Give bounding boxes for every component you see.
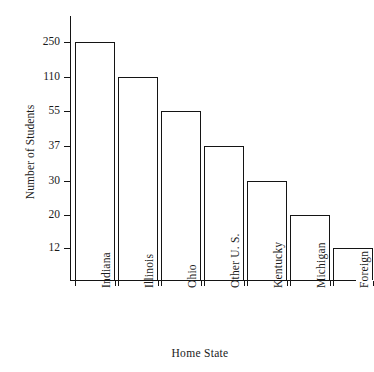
x-tick-mark (287, 281, 288, 286)
x-tick-mark (158, 281, 159, 286)
x-tick-mark (244, 281, 245, 286)
x-tick-mark (333, 281, 334, 286)
y-tick-label: 110 (30, 71, 60, 83)
x-tick-mark (118, 281, 119, 286)
x-tick-mark (247, 281, 248, 286)
y-tick-mark (64, 77, 71, 78)
y-tick-label: 55 (30, 105, 60, 117)
y-tick-label: 37 (30, 140, 60, 152)
x-category-label: Indiana (100, 252, 112, 288)
x-tick-mark (204, 281, 205, 286)
y-tick-label: 12 (30, 242, 60, 254)
y-tick-label-wrap: 110 (28, 71, 60, 83)
x-axis-title: Home State (70, 347, 330, 359)
y-tick-label: 250 (30, 36, 60, 48)
y-tick-label-wrap: 55 (28, 105, 60, 117)
x-category-label: Other U. S. (229, 233, 241, 288)
y-tick-label-wrap: 37 (28, 140, 60, 152)
bar-illinois (118, 77, 158, 280)
y-tick-label: 30 (30, 175, 60, 187)
y-tick-mark (64, 181, 71, 182)
x-tick-mark (290, 281, 291, 286)
x-tick-mark (75, 281, 76, 286)
x-category-label: Foreign (358, 251, 370, 288)
x-category-label: Ohio (186, 264, 198, 288)
x-tick-mark (201, 281, 202, 286)
y-tick-label: 20 (30, 209, 60, 221)
x-tick-mark (330, 281, 331, 286)
x-category-label: Illinois (143, 254, 155, 288)
y-axis-line (70, 16, 71, 281)
x-tick-mark (161, 281, 162, 286)
y-tick-label-wrap: 12 (28, 242, 60, 254)
y-tick-mark (64, 146, 71, 147)
x-category-label: Michigan (315, 242, 327, 288)
y-tick-mark (64, 248, 71, 249)
y-tick-mark (64, 42, 71, 43)
y-tick-label-wrap: 30 (28, 175, 60, 187)
x-axis-line (70, 280, 356, 281)
y-tick-label-wrap: 20 (28, 209, 60, 221)
bar-ohio (161, 111, 201, 280)
y-tick-mark (64, 111, 71, 112)
y-tick-mark (64, 215, 71, 216)
bar-indiana (75, 42, 115, 280)
x-category-label: Kentucky (272, 242, 284, 288)
x-tick-mark (115, 281, 116, 286)
y-tick-label-wrap: 250 (28, 36, 60, 48)
